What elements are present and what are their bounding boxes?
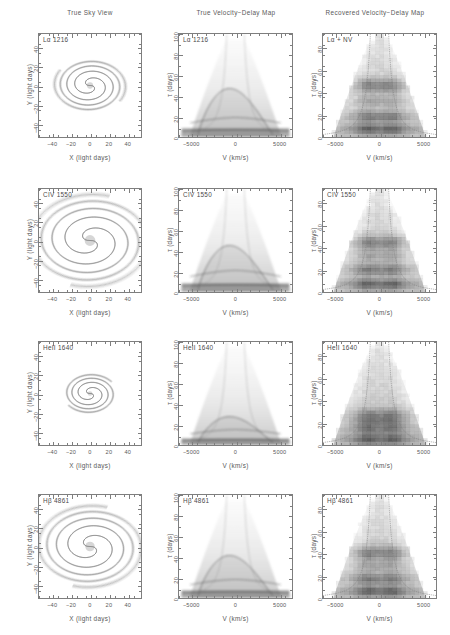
ytick-minor-left — [323, 189, 325, 190]
ytick-minor-left — [39, 218, 41, 219]
xtick-minor-bottom — [350, 596, 351, 598]
xticklabel: −5000 — [319, 296, 351, 302]
ytick-minor-right — [434, 55, 436, 56]
ytick-minor-left — [39, 524, 41, 525]
ytick-minor-right — [139, 72, 141, 73]
ytick-major — [179, 55, 183, 56]
xtick-minor-bottom — [285, 443, 286, 445]
xticklabel: 0 — [220, 296, 252, 302]
ytick-major — [179, 363, 183, 364]
xtick-minor-top — [77, 34, 78, 36]
xtick-major — [91, 442, 92, 446]
xtick-minor-bottom — [241, 290, 242, 292]
xtick-minor-bottom — [412, 443, 413, 445]
xtick-minor-top — [115, 495, 116, 497]
xtick-major — [425, 442, 426, 446]
xtick-minor-bottom — [232, 443, 233, 445]
ytick-minor-left — [323, 384, 325, 385]
xtick-minor-bottom — [124, 596, 125, 598]
xtick-major — [110, 134, 111, 138]
xtick-major — [129, 442, 130, 446]
xtick-minor-bottom — [49, 135, 50, 137]
ytick-minor-right — [434, 76, 436, 77]
xtick-major — [110, 495, 111, 499]
ytick-minor-left — [39, 380, 41, 381]
ytick-minor-right — [139, 543, 141, 544]
xtick-major — [237, 595, 238, 599]
ytick-minor-left — [39, 34, 41, 35]
ytick-minor-right — [290, 527, 292, 528]
ytick-major — [289, 495, 293, 496]
xtick-minor-top — [250, 342, 251, 344]
xtick-major — [192, 595, 193, 599]
ytick-minor-right — [290, 437, 292, 438]
xtick-minor-bottom — [134, 443, 135, 445]
xtick-minor-bottom — [332, 135, 333, 137]
xaxis-title-lya-sky: X (light days) — [45, 154, 135, 161]
ytick-minor-right — [434, 353, 436, 354]
ytick-major — [433, 356, 437, 357]
yticklabel: 100 — [173, 493, 179, 513]
xtick-major — [53, 595, 54, 599]
xtick-minor-bottom — [124, 135, 125, 137]
xtick-minor-bottom — [96, 443, 97, 445]
ytick-minor-left — [323, 242, 325, 243]
ytick-major — [39, 433, 43, 434]
xtick-major — [72, 495, 73, 499]
ytick-major — [323, 509, 327, 510]
ytick-major — [138, 125, 142, 126]
xtick-minor-top — [285, 189, 286, 191]
xtick-minor-top — [412, 495, 413, 497]
xtick-minor-top — [96, 34, 97, 36]
panel-heii-recovered: HeII 1640 — [322, 341, 437, 446]
xtick-minor-bottom — [403, 443, 404, 445]
xtick-minor-top — [394, 189, 395, 191]
ytick-minor-right — [434, 97, 436, 98]
xtick-minor-top — [134, 495, 135, 497]
ytick-minor-left — [39, 199, 41, 200]
xaxis-title-civ-true_map: V (km/s) — [191, 309, 281, 316]
yaxis-title-heii-sky: Y (light days) — [26, 357, 33, 427]
yaxis-title-hbeta-sky: Y (light days) — [26, 510, 33, 580]
xtick-minor-bottom — [58, 135, 59, 137]
ytick-minor-left — [323, 548, 325, 549]
xtick-minor-top — [223, 34, 224, 36]
plot-area-heii-recovered — [323, 342, 436, 445]
yticklabel: 0 — [173, 292, 179, 312]
xtick-major — [425, 495, 426, 499]
xtick-minor-bottom — [341, 596, 342, 598]
yticklabel: −40 — [33, 431, 39, 451]
ytick-minor-right — [434, 189, 436, 190]
xtick-minor-top — [214, 342, 215, 344]
ytick-minor-right — [434, 558, 436, 559]
xtick-minor-bottom — [376, 443, 377, 445]
xtick-minor-top — [376, 495, 377, 497]
xtick-minor-bottom — [206, 290, 207, 292]
xtick-minor-bottom — [394, 290, 395, 292]
xtick-minor-top — [86, 189, 87, 191]
yticklabel: 40 — [317, 246, 323, 266]
xtick-minor-bottom — [350, 290, 351, 292]
xtick-minor-bottom — [179, 443, 180, 445]
xtick-major — [91, 189, 92, 193]
xtick-major — [237, 34, 238, 38]
ytick-major — [138, 261, 142, 262]
yticklabel: 60 — [173, 229, 179, 249]
xtick-minor-bottom — [412, 135, 413, 137]
xtick-minor-bottom — [259, 135, 260, 137]
ytick-minor-left — [39, 399, 41, 400]
ytick-minor-left — [179, 353, 181, 354]
ytick-major — [323, 554, 327, 555]
ytick-minor-right — [290, 548, 292, 549]
ytick-minor-right — [434, 395, 436, 396]
ytick-minor-left — [323, 97, 325, 98]
yticklabel: 60 — [173, 535, 179, 555]
ytick-minor-left — [39, 208, 41, 209]
ytick-major — [179, 118, 183, 119]
ytick-minor-right — [139, 524, 141, 525]
xtick-major — [381, 495, 382, 499]
xtick-minor-top — [232, 495, 233, 497]
ytick-major — [289, 210, 293, 211]
xtick-minor-top — [124, 495, 125, 497]
xtick-major — [91, 342, 92, 346]
